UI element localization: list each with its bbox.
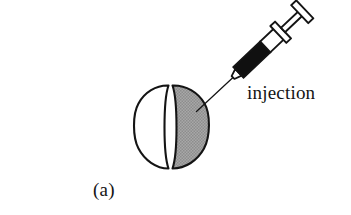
embryo-left-lobe: [134, 85, 169, 168]
needle-group: [197, 78, 234, 112]
needle-shaft: [197, 78, 234, 112]
panel-label: (a): [93, 180, 115, 199]
injection-diagram: [0, 0, 351, 215]
figure-panel: injection (a): [0, 0, 351, 215]
syringe-group: [224, 0, 313, 86]
injection-label: injection: [247, 83, 315, 102]
embryo-right-lobe: [173, 85, 209, 168]
embryo-group: [134, 85, 209, 168]
